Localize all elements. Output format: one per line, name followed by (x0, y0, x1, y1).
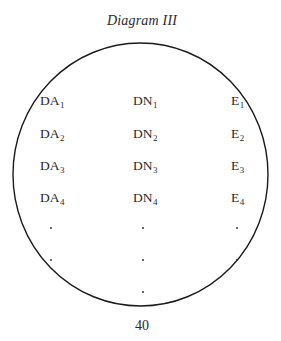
label-base: DA (40, 126, 60, 141)
label-e-4: E4 (231, 191, 244, 209)
page-number: 40 (0, 318, 281, 334)
label-base: DA (40, 93, 60, 108)
label-dn-2: DN2 (133, 127, 158, 145)
label-base: E (231, 190, 239, 205)
label-da-4: DA4 (40, 191, 65, 209)
label-dn-4: DN4 (133, 191, 158, 209)
label-subscript: 1 (60, 100, 65, 110)
ellipsis-dot (50, 259, 52, 261)
label-base: DN (133, 158, 153, 173)
label-subscript: 3 (153, 165, 158, 175)
label-da-3: DA3 (40, 159, 65, 177)
label-subscript: 2 (153, 133, 158, 143)
label-subscript: 4 (153, 197, 158, 207)
label-dn-1: DN1 (133, 94, 158, 112)
label-subscript: 1 (240, 100, 245, 110)
label-subscript: 2 (60, 133, 65, 143)
label-e-3: E3 (231, 159, 244, 177)
label-base: DA (40, 190, 60, 205)
label-e-2: E2 (231, 127, 244, 145)
ellipsis-dot (142, 259, 144, 261)
ellipsis-dot (236, 259, 238, 261)
ellipsis-dot (50, 227, 52, 229)
label-subscript: 1 (153, 100, 158, 110)
label-e-1: E1 (231, 94, 244, 112)
label-base: DN (133, 93, 153, 108)
label-subscript: 3 (60, 165, 65, 175)
label-da-1: DA1 (40, 94, 65, 112)
label-dn-3: DN3 (133, 159, 158, 177)
label-subscript: 4 (240, 197, 245, 207)
label-base: E (231, 93, 239, 108)
label-subscript: 2 (240, 133, 245, 143)
label-base: E (231, 126, 239, 141)
ellipsis-dot (236, 227, 238, 229)
label-base: DA (40, 158, 60, 173)
label-subscript: 3 (240, 165, 245, 175)
label-subscript: 4 (60, 197, 65, 207)
label-base: DN (133, 190, 153, 205)
label-base: E (231, 158, 239, 173)
ellipsis-dot (142, 227, 144, 229)
label-da-2: DA2 (40, 127, 65, 145)
ellipsis-dot (142, 291, 144, 293)
label-base: DN (133, 126, 153, 141)
